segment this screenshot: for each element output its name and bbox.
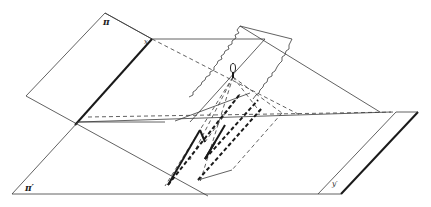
plane-pi-top-edge	[105, 13, 152, 39]
plane-pi-prime-right-thin	[318, 112, 396, 194]
ray-4	[233, 77, 260, 112]
label-pi: π	[102, 17, 110, 27]
line-y-prime	[341, 112, 418, 194]
line-x	[75, 39, 152, 125]
center-o-marker	[231, 64, 236, 73]
figure-b-dashed-1	[198, 108, 262, 180]
label-y-prime: y′	[331, 180, 338, 188]
label-pi-prime: π′	[24, 183, 35, 193]
plane-pi-left-edge	[26, 13, 152, 96]
dashed-horizon-pi-prime	[88, 112, 396, 117]
label-x: x	[144, 38, 148, 46]
ray-5	[233, 77, 282, 113]
plane-pi-prime-left-edge	[12, 122, 78, 194]
plane-pi-prime-top-edge	[78, 112, 391, 122]
figure-a-side-2	[200, 130, 205, 142]
plane-pi-lower-diagonal	[26, 96, 208, 196]
picture-plane-right-wavy-edge	[253, 39, 292, 99]
perspective-diagram: π x π′ y′	[0, 0, 431, 207]
picture-plane-ray-line	[190, 39, 265, 122]
figure-a-side-1	[168, 130, 200, 185]
ray-7	[232, 113, 282, 170]
picture-plane-top-edge	[240, 26, 292, 39]
